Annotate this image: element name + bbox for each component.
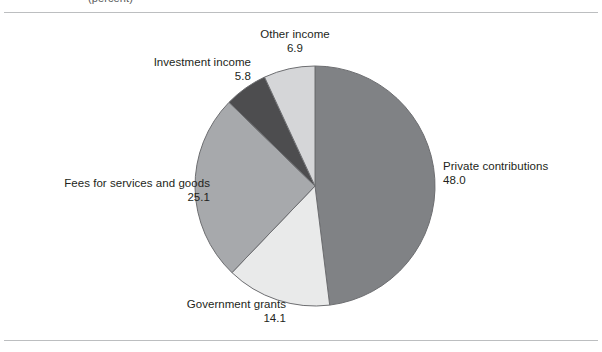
pie-label-value: 5.8	[141, 69, 251, 83]
pie-label-other-income: Other income 6.9	[249, 27, 341, 55]
pie-label-private-contributions: Private contributions 48.0	[443, 159, 583, 187]
clipped-header-text: (percent)	[88, 0, 133, 4]
figure-page: (percent) Other income 6.9 Investment in…	[0, 0, 602, 352]
pie-label-name: Private contributions	[443, 159, 583, 173]
pie-label-value: 6.9	[249, 41, 341, 55]
pie-label-name: Fees for services and goods	[49, 176, 210, 190]
pie-label-investment-income: Investment income 5.8	[141, 55, 251, 83]
pie-label-value: 48.0	[443, 173, 583, 187]
pie-label-value: 14.1	[160, 311, 286, 325]
pie-label-name: Investment income	[141, 55, 251, 69]
pie-label-name: Government grants	[160, 297, 286, 311]
pie-slice	[315, 66, 435, 305]
pie-slice-group	[195, 66, 435, 306]
pie-chart: Other income 6.9 Investment income 5.8 F…	[0, 13, 602, 340]
pie-label-fees-for-services-and-goods: Fees for services and goods 25.1	[49, 176, 210, 204]
rule-bottom	[4, 340, 598, 341]
pie-label-value: 25.1	[49, 190, 210, 204]
pie-label-government-grants: Government grants 14.1	[160, 297, 286, 325]
pie-label-name: Other income	[249, 27, 341, 41]
